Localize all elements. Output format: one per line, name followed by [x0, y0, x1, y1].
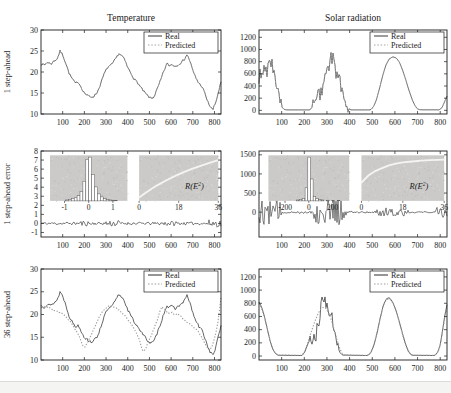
- series-predicted-line: [259, 299, 447, 356]
- y-tick-label: 2: [34, 201, 38, 210]
- page-bottom-strip: [0, 381, 451, 393]
- panel-title: Temperature: [107, 13, 155, 23]
- histogram-bar: [86, 159, 89, 201]
- panel-solar-36-step: 1002003004005006007008000200400600800100…: [227, 256, 450, 382]
- histogram-bar: [66, 200, 69, 201]
- y-tick-label: 25: [30, 47, 38, 56]
- legend-label: Predicted: [391, 41, 421, 50]
- y-tick-label: 0: [252, 106, 256, 115]
- y-tick-label: 1200: [240, 273, 256, 282]
- x-tick-label: 500: [143, 364, 155, 373]
- x-tick-label: 200: [78, 364, 90, 373]
- histogram-bar: [299, 200, 302, 201]
- x-tick-label: 200: [78, 118, 90, 127]
- histogram-bar: [103, 199, 106, 201]
- y-tick-label: 20: [30, 68, 38, 77]
- series-real-line: [41, 50, 221, 109]
- panel-temperature-36-step: 36 step-ahead100200300400500600700800101…: [1, 256, 225, 382]
- y-tick-label: 600: [244, 69, 256, 78]
- inset-tick-label: -200: [278, 203, 292, 212]
- x-tick-label: 800: [208, 364, 220, 373]
- x-tick-label: 800: [434, 118, 446, 127]
- y-tick-label: 3: [34, 192, 38, 201]
- inset-error-histogram: -101: [50, 155, 128, 212]
- x-tick-label: 400: [344, 241, 356, 250]
- histogram-bar: [83, 181, 86, 201]
- x-tick-label: 100: [57, 241, 69, 250]
- x-tick-label: 700: [412, 364, 424, 373]
- x-tick-label: 200: [78, 241, 90, 250]
- panel-temperature-1-step-error: 1 step-ahead error-101R(E2)0183610020030…: [1, 130, 225, 256]
- y-axis-label: 36 step-ahead: [2, 290, 12, 338]
- inset-tick-label: 18: [399, 203, 407, 212]
- histogram-bar: [318, 200, 321, 201]
- inset-error-histogram: -2000200: [268, 155, 350, 212]
- inset-autocorrelation: R(E2)01836: [137, 155, 222, 212]
- histogram-bar: [80, 191, 83, 201]
- x-tick-label: 800: [208, 118, 220, 127]
- histogram-bar: [68, 200, 71, 201]
- x-tick-label: 300: [321, 241, 333, 250]
- inset-background: [139, 155, 218, 201]
- y-tick-label: 1000: [240, 286, 256, 295]
- x-tick-label: 300: [100, 364, 112, 373]
- legend-label: Predicted: [391, 280, 421, 289]
- y-axis-label: 1 step-ahead error: [2, 163, 12, 225]
- series-predicted-line: [41, 50, 221, 109]
- x-tick-label: 200: [298, 118, 310, 127]
- legend-box: RealPredicted: [144, 32, 218, 54]
- y-tick-label: 800: [244, 57, 256, 66]
- x-tick-label: 500: [143, 241, 155, 250]
- histogram-bar: [100, 197, 103, 201]
- panel-title: Solar radiation: [325, 13, 381, 23]
- y-tick-label: 1000: [240, 170, 256, 179]
- panel-temperature-1-step: Temperature1 step-ahead10020030040050060…: [1, 4, 225, 130]
- x-tick-label: 600: [389, 364, 401, 373]
- x-tick-label: 800: [434, 241, 446, 250]
- x-tick-label: 600: [165, 364, 177, 373]
- y-tick-label: 500: [244, 189, 256, 198]
- y-tick-label: 6: [34, 165, 38, 174]
- y-tick-label: 30: [30, 265, 38, 274]
- series-predicted-line: [259, 53, 447, 113]
- inset-autocorrelation: R(E2)01836: [360, 155, 449, 212]
- y-tick-label: 1: [34, 210, 38, 219]
- x-tick-label: 300: [100, 118, 112, 127]
- histogram-bar: [109, 200, 112, 201]
- x-tick-label: 400: [344, 364, 356, 373]
- legend-box: RealPredicted: [370, 271, 444, 293]
- x-tick-label: 200: [298, 241, 310, 250]
- series-predicted-line: [41, 297, 221, 351]
- histogram-bar: [321, 200, 324, 201]
- legend-label: Real: [391, 32, 406, 41]
- y-tick-label: 7: [34, 156, 38, 165]
- histogram-bar: [313, 197, 316, 201]
- legend-label: Real: [165, 32, 180, 41]
- y-tick-label: 8: [34, 147, 38, 156]
- y-tick-label: 5: [34, 174, 38, 183]
- x-tick-label: 600: [165, 241, 177, 250]
- y-tick-label: 400: [244, 325, 256, 334]
- histogram-bar: [327, 200, 330, 201]
- legend-label: Real: [391, 271, 406, 280]
- legend-box: RealPredicted: [370, 32, 444, 54]
- panel-solar-1-step-error: -2000200R(E2)018361002003004005006007008…: [227, 130, 450, 256]
- x-tick-label: 500: [143, 118, 155, 127]
- x-tick-label: 700: [412, 118, 424, 127]
- histogram-bar: [332, 200, 335, 201]
- x-tick-label: 700: [187, 118, 199, 127]
- histogram-bar: [311, 179, 314, 201]
- histogram-bar: [71, 199, 74, 201]
- y-tick-label: -1: [31, 228, 38, 237]
- inset-tick-label: 0: [87, 203, 91, 212]
- histogram-bar: [89, 157, 92, 201]
- x-tick-label: 100: [57, 364, 69, 373]
- histogram-bar: [97, 194, 100, 201]
- x-tick-label: 600: [165, 118, 177, 127]
- legend-label: Real: [165, 271, 180, 280]
- x-tick-label: 500: [366, 118, 378, 127]
- x-tick-label: 400: [122, 364, 134, 373]
- histogram-bar: [308, 157, 311, 201]
- legend-label: Predicted: [165, 41, 195, 50]
- x-tick-label: 700: [412, 241, 424, 250]
